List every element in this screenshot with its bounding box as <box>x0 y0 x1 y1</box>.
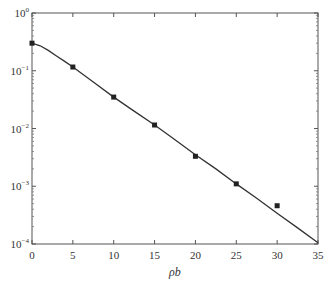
data-point-marker <box>193 154 198 159</box>
data-point-marker <box>275 203 280 208</box>
plot-frame <box>32 13 318 244</box>
x-tick-label: 25 <box>231 249 243 261</box>
x-tick-label: 30 <box>272 249 284 261</box>
x-tick-label: 5 <box>70 249 76 261</box>
data-point-marker <box>234 181 239 186</box>
x-axis-ticks: 05101520253035 <box>29 13 324 261</box>
data-point-marker <box>111 95 116 100</box>
y-tick-label: 10−4 <box>11 237 30 250</box>
y-tick-label: 10−2 <box>11 122 30 135</box>
y-tick-label: 10−1 <box>11 64 30 77</box>
data-point-marker <box>30 41 35 46</box>
x-axis-label: ρb <box>168 265 181 279</box>
x-tick-label: 15 <box>149 249 161 261</box>
data-point-marker <box>70 65 75 70</box>
x-tick-label: 10 <box>108 249 120 261</box>
x-tick-label: 0 <box>29 249 35 261</box>
x-tick-label: 20 <box>190 249 202 261</box>
theory-curve <box>32 43 318 243</box>
data-point-marker <box>152 122 157 127</box>
plot-border <box>32 13 318 244</box>
chart: 05101520253035 10010−110−210−310−4 ρb <box>0 0 330 287</box>
y-axis-ticks: 10010−110−210−310−4 <box>11 6 318 250</box>
x-tick-label: 35 <box>313 249 325 261</box>
y-tick-label: 10−3 <box>11 179 30 192</box>
series-layer <box>30 41 319 243</box>
y-tick-label: 100 <box>15 6 30 19</box>
